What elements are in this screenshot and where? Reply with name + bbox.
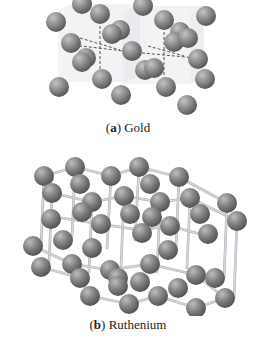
atom-sphere <box>119 294 139 314</box>
atom-sphere <box>130 272 150 292</box>
gold-caption: (a) Gold <box>0 120 256 136</box>
atom-sphere <box>70 174 90 194</box>
atom-sphere <box>70 268 90 288</box>
atom-sphere <box>34 166 54 186</box>
atom-sphere <box>227 211 247 231</box>
atom-sphere <box>72 202 92 222</box>
atom-sphere <box>102 24 122 44</box>
atom-sphere <box>120 204 140 224</box>
atom-sphere <box>177 95 197 115</box>
ruthenium-caption: (b) Ruthenium <box>0 317 256 333</box>
gold-crystal-figure <box>0 0 256 118</box>
atom-sphere <box>168 278 188 298</box>
atom-sphere <box>82 238 102 258</box>
atom-sphere <box>195 69 215 89</box>
atom-sphere <box>49 77 69 97</box>
atom-sphere <box>114 186 134 206</box>
gold-fcc-lattice-diagram <box>0 0 256 118</box>
atom-sphere <box>178 28 198 48</box>
atom-sphere <box>198 224 218 244</box>
atom-sphere <box>41 209 61 229</box>
gold-caption-label: (a) <box>106 120 121 135</box>
atom-sphere <box>132 223 152 243</box>
atom-sphere <box>169 167 189 187</box>
atom-sphere <box>65 157 85 177</box>
atom-sphere <box>140 174 160 194</box>
atom-spheres <box>23 157 247 316</box>
ruthenium-caption-name: Ruthenium <box>109 317 167 332</box>
atom-sphere <box>129 157 149 177</box>
atom-sphere <box>31 257 51 277</box>
atom-sphere <box>154 10 174 30</box>
lattice-rod <box>107 176 111 248</box>
atom-sphere <box>186 265 206 285</box>
atom-sphere <box>186 298 206 316</box>
atom-sphere <box>46 12 66 32</box>
atom-sphere <box>101 166 121 186</box>
atom-sphere <box>23 236 43 256</box>
atom-sphere <box>53 230 73 250</box>
atom-sphere <box>108 276 128 296</box>
atom-sphere <box>190 204 210 224</box>
atom-sphere <box>90 4 110 24</box>
atom-sphere <box>196 6 216 26</box>
atom-sphere <box>61 33 81 53</box>
ruthenium-crystal-figure <box>0 138 256 316</box>
atom-sphere <box>205 268 225 288</box>
atom-sphere <box>91 214 111 234</box>
atom-sphere <box>158 240 178 260</box>
atom-sphere <box>72 52 92 72</box>
gold-caption-name: Gold <box>124 120 150 135</box>
atom-sphere <box>160 216 180 236</box>
atom-sphere <box>215 288 235 308</box>
atom-sphere <box>42 183 62 203</box>
atom-sphere <box>122 41 142 61</box>
atom-sphere <box>217 193 237 213</box>
atom-sphere <box>80 286 100 306</box>
atom-sphere <box>188 49 208 69</box>
atom-sphere <box>156 77 176 97</box>
ruthenium-lattice-diagram <box>0 138 256 316</box>
atom-sphere <box>111 85 131 105</box>
atom-sphere <box>140 254 160 274</box>
atom-sphere <box>148 286 168 306</box>
atom-sphere <box>144 58 164 78</box>
ruthenium-caption-label: (b) <box>90 317 106 332</box>
atom-sphere <box>92 69 112 89</box>
